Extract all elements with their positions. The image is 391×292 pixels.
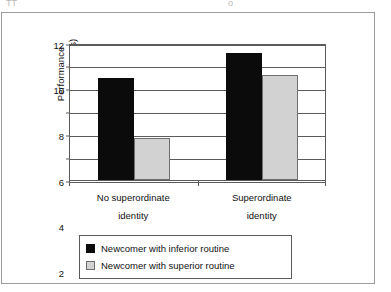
gridline: 12 — [70, 45, 325, 46]
x-axis-category-label: No superordinateidentity — [69, 189, 198, 225]
y-axis-tick-mark — [66, 67, 70, 68]
page-fragment-right: o — [228, 0, 233, 8]
y-axis-tick-label: 8 — [59, 130, 64, 141]
y-axis-tick-mark — [66, 113, 70, 114]
y-axis-tick-label: 10 — [53, 85, 64, 96]
y-axis-title-line1: Performance — [55, 22, 67, 126]
chart-legend: Newcomer with inferior routine Newcomer … — [79, 235, 292, 279]
x-axis-labels: No superordinateidentitySuperordinateide… — [69, 189, 326, 229]
plot-area: 024681012 — [69, 44, 326, 181]
legend-swatch-inferior-routine — [86, 244, 95, 253]
bar — [134, 138, 170, 180]
y-axis-tick-mark — [66, 44, 70, 45]
x-axis-ticks — [69, 181, 326, 187]
x-axis-tick-mark — [69, 181, 70, 186]
x-axis-category-line2: identity — [69, 207, 198, 225]
y-axis-tick-mark — [66, 90, 70, 91]
y-axis-tick-label: 2 — [59, 267, 64, 278]
bar — [262, 75, 298, 180]
x-axis-tick-mark — [198, 181, 199, 186]
legend-swatch-superior-routine — [86, 261, 95, 270]
y-axis-tick-label: 6 — [59, 176, 64, 187]
legend-item: Newcomer with inferior routine — [86, 240, 285, 257]
x-axis-category-label: Superordinateidentity — [198, 189, 327, 225]
legend-item: Newcomer with superior routine — [86, 257, 285, 274]
gridline: 10 — [70, 67, 325, 68]
page-text-fragment: TT o — [0, 0, 391, 10]
x-axis-category-line2: identity — [198, 207, 327, 225]
bar — [226, 53, 262, 180]
bar-chart: Performance (no. of sailboats) 024681012… — [2, 13, 376, 285]
y-axis-tick-mark — [66, 135, 70, 136]
x-axis-category-line1: No superordinate — [69, 189, 198, 207]
y-axis-tick-label: 4 — [59, 222, 64, 233]
page-fragment-left: TT — [6, 0, 17, 8]
figure-frame: Performance (no. of sailboats) 024681012… — [1, 12, 375, 284]
y-axis-tick-mark — [66, 158, 70, 159]
legend-label-inferior-routine: Newcomer with inferior routine — [101, 243, 229, 254]
y-axis-tick-label: 12 — [53, 39, 64, 50]
legend-label-superior-routine: Newcomer with superior routine — [101, 260, 235, 271]
x-axis-tick-mark — [325, 181, 326, 186]
x-axis-category-line1: Superordinate — [198, 189, 327, 207]
bar — [98, 78, 134, 180]
